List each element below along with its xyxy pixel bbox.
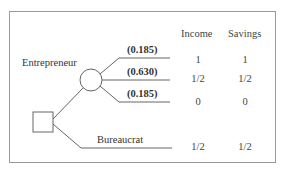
entrepreneur-branch xyxy=(53,88,83,119)
savings-value-1: 1 xyxy=(230,55,260,66)
choice-label-entrepreneur: Entrepreneur xyxy=(22,58,77,69)
income-value-3: 0 xyxy=(183,97,213,108)
chance-node-circle xyxy=(80,69,102,91)
column-header-income: Income xyxy=(181,29,213,40)
savings-value-bureaucrat: 1/2 xyxy=(230,142,260,153)
income-value-bureaucrat: 1/2 xyxy=(183,142,213,153)
outcome-probability-2: (0.630) xyxy=(127,67,158,78)
decision-node-square xyxy=(33,112,53,132)
outcome-probability-3: (0.185) xyxy=(127,89,158,100)
outcome-probability-1: (0.185) xyxy=(127,45,158,56)
choice-label-bureaucrat: Bureaucrat xyxy=(97,135,143,146)
income-value-2: 1/2 xyxy=(183,74,213,85)
income-value-1: 1 xyxy=(183,55,213,66)
savings-value-2: 1/2 xyxy=(230,74,260,85)
savings-value-3: 0 xyxy=(230,97,260,108)
column-header-savings: Savings xyxy=(228,29,261,40)
